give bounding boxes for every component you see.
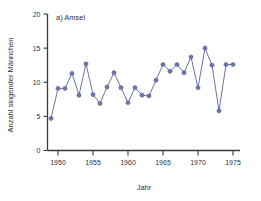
line-chart-figure: 05101520 195019551960196519701975 a) Ams… xyxy=(0,0,261,201)
data-point-marker xyxy=(217,109,221,113)
data-point-marker xyxy=(154,78,158,82)
data-point-marker xyxy=(63,86,67,90)
data-point-marker xyxy=(56,86,60,90)
data-point-marker xyxy=(105,85,109,89)
data-point-marker xyxy=(112,71,116,75)
data-point-marker xyxy=(140,93,144,97)
data-point-marker xyxy=(175,62,179,66)
x-tick-label: 1975 xyxy=(225,159,241,166)
y-tick-group: 05101520 xyxy=(33,11,48,155)
data-point-marker xyxy=(161,62,165,66)
data-point-marker xyxy=(224,62,228,66)
data-point-marker xyxy=(231,62,235,66)
y-tick-label: 15 xyxy=(33,45,41,52)
y-tick-label: 5 xyxy=(37,113,41,120)
data-point-marker xyxy=(119,86,123,90)
y-tick-label: 10 xyxy=(33,79,41,86)
y-axis: 05101520 xyxy=(33,11,48,155)
x-axis: 195019551960196519701975 xyxy=(48,151,241,166)
x-tick-label: 1960 xyxy=(120,159,136,166)
chart-svg: 05101520 195019551960196519701975 a) Ams… xyxy=(0,0,261,201)
x-tick-label: 1965 xyxy=(155,159,171,166)
data-point-marker xyxy=(70,71,74,75)
series-markers xyxy=(49,46,235,120)
data-point-marker xyxy=(182,71,186,75)
x-tick-group: 195019551960196519701975 xyxy=(50,151,241,166)
data-point-marker xyxy=(203,46,207,50)
data-point-marker xyxy=(126,101,130,105)
x-tick-label: 1970 xyxy=(190,159,206,166)
data-point-marker xyxy=(147,94,151,98)
data-point-marker xyxy=(91,92,95,96)
data-point-marker xyxy=(49,116,53,120)
y-tick-label: 0 xyxy=(37,147,41,154)
y-tick-label: 20 xyxy=(33,11,41,18)
data-point-marker xyxy=(98,101,102,105)
data-point-marker xyxy=(196,86,200,90)
x-tick-label: 1955 xyxy=(85,159,101,166)
data-point-marker xyxy=(84,62,88,66)
y-axis-title: Anzahl singender Männchen xyxy=(6,37,15,132)
data-series xyxy=(49,46,235,120)
data-point-marker xyxy=(210,63,214,67)
panel-title: a) Amsel xyxy=(56,13,86,22)
data-point-marker xyxy=(77,93,81,97)
data-point-marker xyxy=(168,69,172,73)
chart-container: 05101520 195019551960196519701975 a) Ams… xyxy=(0,0,261,201)
data-point-marker xyxy=(189,55,193,59)
x-axis-title: Jahr xyxy=(137,183,152,192)
series-line-amsel xyxy=(51,48,233,118)
x-tick-label: 1950 xyxy=(50,159,66,166)
data-point-marker xyxy=(133,86,137,90)
